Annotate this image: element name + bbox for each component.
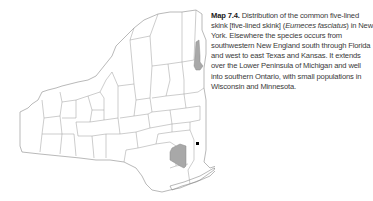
- range-area-champlain: [194, 40, 203, 70]
- map-caption: Map 7.4. Distribution of the common five…: [211, 11, 373, 92]
- range-area-hudson-highlands: [170, 144, 186, 168]
- distribution-map: [0, 0, 215, 201]
- caption-text-body: ) in New York. Elsewhere the species occ…: [211, 21, 373, 91]
- caption-scientific-name: Eumeces fasciatus: [285, 21, 346, 30]
- caption-label: Map 7.4.: [211, 11, 240, 20]
- new-york-county-map: [0, 0, 215, 201]
- long-island-outline: [170, 168, 215, 190]
- record-point-marker: [196, 142, 199, 145]
